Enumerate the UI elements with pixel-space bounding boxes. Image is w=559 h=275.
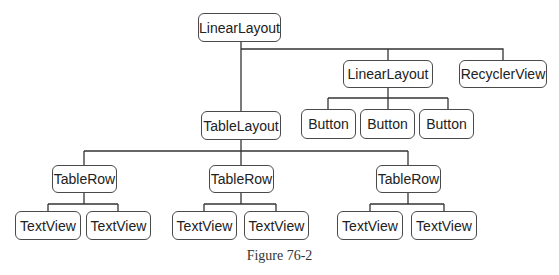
node-textview-1: TextView <box>15 211 81 240</box>
node-textview-5: TextView <box>337 211 403 240</box>
node-tablerow-2: TableRow <box>209 165 274 193</box>
node-button-3: Button <box>419 109 474 139</box>
node-tablerow-3: TableRow <box>376 165 441 193</box>
node-linearlayout: LinearLayout <box>343 60 433 88</box>
node-button-1: Button <box>301 109 356 139</box>
diagram-canvas: LinearLayout LinearLayout RecyclerView B… <box>0 0 559 275</box>
node-textview-4: TextView <box>244 211 309 240</box>
node-root-linearlayout: LinearLayout <box>198 13 281 42</box>
figure-caption: Figure 76-2 <box>0 248 559 264</box>
node-textview-2: TextView <box>86 211 151 240</box>
node-button-2: Button <box>360 109 415 139</box>
node-recyclerview: RecyclerView <box>459 60 547 88</box>
node-tablelayout: TableLayout <box>201 111 281 140</box>
node-textview-6: TextView <box>411 211 477 240</box>
node-textview-3: TextView <box>172 211 237 240</box>
node-tablerow-1: TableRow <box>52 165 117 193</box>
